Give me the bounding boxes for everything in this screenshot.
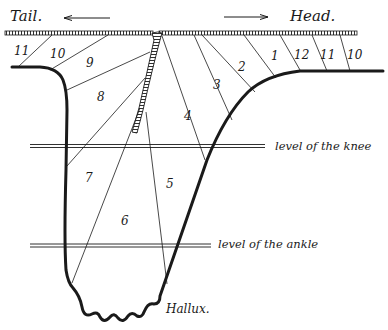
segment-3: 3	[213, 78, 221, 92]
ankle-level-line	[30, 244, 211, 247]
segment-7: 7	[85, 171, 93, 185]
segment-9: 9	[86, 56, 94, 70]
arrow-left-icon	[64, 16, 110, 21]
segment-11-left: 11	[14, 44, 29, 58]
segment-1: 1	[271, 49, 279, 63]
segment-8: 8	[97, 90, 105, 104]
limb-outline	[12, 67, 383, 321]
segment-4: 4	[183, 109, 192, 123]
segment-10-right: 10	[347, 48, 363, 62]
arrow-right-icon	[224, 15, 268, 20]
ankle-level-label: level of the ankle	[218, 237, 318, 251]
segment-10-left: 10	[50, 47, 66, 61]
segment-11-right: 11	[320, 48, 335, 62]
dorsal-axis-bar	[5, 31, 357, 35]
hallux-label: Hallux.	[165, 302, 210, 316]
segment-2: 2	[237, 60, 246, 74]
segment-12: 12	[294, 48, 309, 62]
knee-level-label: level of the knee	[275, 139, 372, 153]
tail-label: Tail.	[10, 7, 42, 25]
segment-5: 5	[166, 177, 174, 191]
segment-6: 6	[121, 214, 129, 228]
head-label: Head.	[289, 7, 335, 25]
dermatome-diagram: Tail. Head.	[0, 0, 388, 330]
